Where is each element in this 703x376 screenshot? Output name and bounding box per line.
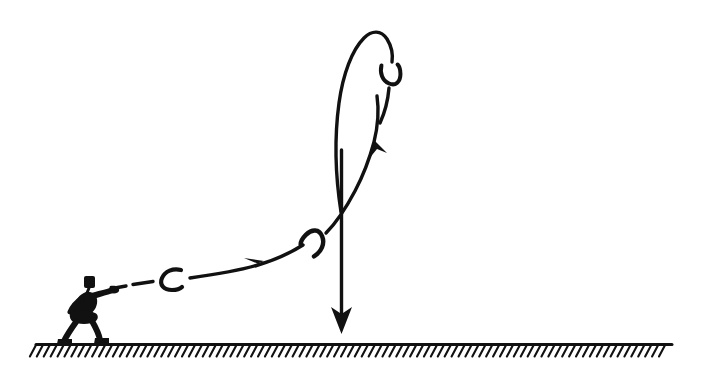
ground-hatch-stroke [113, 345, 119, 356]
ground-hatch-stroke [210, 345, 216, 356]
ground-hatch-stroke [389, 345, 395, 356]
ground-hatch-stroke [514, 345, 520, 356]
ground-hatch-stroke [452, 345, 458, 356]
ground-hatch-stroke [431, 345, 437, 356]
ground-hatch-stroke [182, 345, 188, 356]
ground-hatch-stroke [85, 345, 91, 356]
boomerang-2 [298, 227, 329, 258]
boomerang-3-shape [381, 65, 401, 85]
ground-hatch-stroke [141, 345, 147, 356]
loop-arch [336, 32, 392, 212]
ground-hatch-stroke [631, 345, 637, 356]
ground-hatch-stroke [528, 345, 534, 356]
ground-hatch-stroke [341, 345, 347, 356]
ground-hatch-stroke [320, 345, 326, 356]
ground-hatch-stroke [417, 345, 423, 356]
ground-hatch-stroke [659, 345, 665, 356]
ground-hatch-stroke [583, 345, 589, 356]
ground-hatch-stroke [459, 345, 465, 356]
ground-hatch-stroke [334, 345, 340, 356]
ground-hatch-stroke [120, 345, 126, 356]
ground-hatch-stroke [472, 345, 478, 356]
ground-hatch-stroke [507, 345, 513, 356]
ground-hatch-stroke [37, 345, 43, 356]
boomerang-1 [161, 269, 182, 290]
ground-hatch-stroke [92, 345, 98, 356]
ground-hatch-stroke [541, 345, 547, 356]
ground-hatch-stroke [486, 345, 492, 356]
ground-hatch-stroke [624, 345, 630, 356]
ground-hatch-stroke [71, 345, 77, 356]
ground-hatch-stroke [569, 345, 575, 356]
ground-hatch-stroke [403, 345, 409, 356]
ground-hatch-stroke [147, 345, 153, 356]
outbound-path-group [190, 245, 303, 278]
ground-hatch-stroke [286, 345, 292, 356]
thrower-head [84, 276, 95, 288]
thrower-back-leg [64, 322, 76, 341]
release-dashes [112, 282, 153, 289]
ground-hatch-stroke [348, 345, 354, 356]
descent-group [331, 150, 352, 334]
ground-hatch-stroke [58, 345, 64, 356]
ground-hatch-stroke [161, 345, 167, 356]
outbound-curve [190, 245, 303, 278]
boomerang-3 [381, 65, 401, 85]
ground-hatch-stroke [424, 345, 430, 356]
ground-hatch-stroke [576, 345, 582, 356]
ground-hatch-stroke [203, 345, 209, 356]
rising-curve [326, 96, 378, 233]
ground-hatch-stroke [106, 345, 112, 356]
ground-hatch-stroke [217, 345, 223, 356]
ground-hatch-stroke [44, 345, 50, 356]
ground-hatch-stroke [521, 345, 527, 356]
ground-hatch-stroke [223, 345, 229, 356]
ground-hatch-stroke [127, 345, 133, 356]
ground-hatch-stroke [638, 345, 644, 356]
ground-hatch-stroke [465, 345, 471, 356]
ground-hatch-stroke [244, 345, 250, 356]
ground-hatch-stroke [154, 345, 160, 356]
release-dash-2 [133, 282, 153, 285]
ground-hatch-stroke [438, 345, 444, 356]
ground-hatch-stroke [237, 345, 243, 356]
ground-hatch-stroke [590, 345, 596, 356]
ground-hatch-stroke [618, 345, 624, 356]
ground-hatch-stroke [548, 345, 554, 356]
ground-hatch-stroke [272, 345, 278, 356]
ground-hatch-stroke [604, 345, 610, 356]
ground-hatch-stroke [230, 345, 236, 356]
figure-root: Boomerang flight path Hand-drawn sketch … [0, 0, 703, 376]
ground-hatch-stroke [134, 345, 140, 356]
ground-hatch-stroke [51, 345, 57, 356]
ground-hatch-stroke [500, 345, 506, 356]
ground-hatch-stroke [251, 345, 257, 356]
ground-hatch-stroke [355, 345, 361, 356]
ground-hatch-stroke [189, 345, 195, 356]
ground-hatch-stroke [611, 345, 617, 356]
ground-hatch-stroke [78, 345, 84, 356]
ground-hatch-stroke [300, 345, 306, 356]
thrower-front-foot [94, 338, 109, 344]
loop-group [336, 32, 392, 212]
ground-hatching [30, 345, 665, 356]
loop-right-stub [380, 88, 389, 123]
ground-hatch-stroke [327, 345, 333, 356]
ground-hatch-stroke [382, 345, 388, 356]
thrower-figure [57, 276, 119, 344]
boomerang-diagram-canvas [0, 0, 703, 376]
ground-hatch-stroke [293, 345, 299, 356]
ground-hatch-stroke [313, 345, 319, 356]
ground-hatch-stroke [196, 345, 202, 356]
ground-hatch-stroke [479, 345, 485, 356]
ground-hatch-stroke [64, 345, 70, 356]
thrower-front-leg [92, 321, 100, 340]
ground-hatch-stroke [265, 345, 271, 356]
ground-hatch-stroke [369, 345, 375, 356]
ground-hatch-stroke [376, 345, 382, 356]
ground-hatch-stroke [168, 345, 174, 356]
boomerang-1-shape [161, 269, 182, 290]
ground-hatch-stroke [99, 345, 105, 356]
ground-hatch-stroke [410, 345, 416, 356]
ground-hatch-stroke [535, 345, 541, 356]
